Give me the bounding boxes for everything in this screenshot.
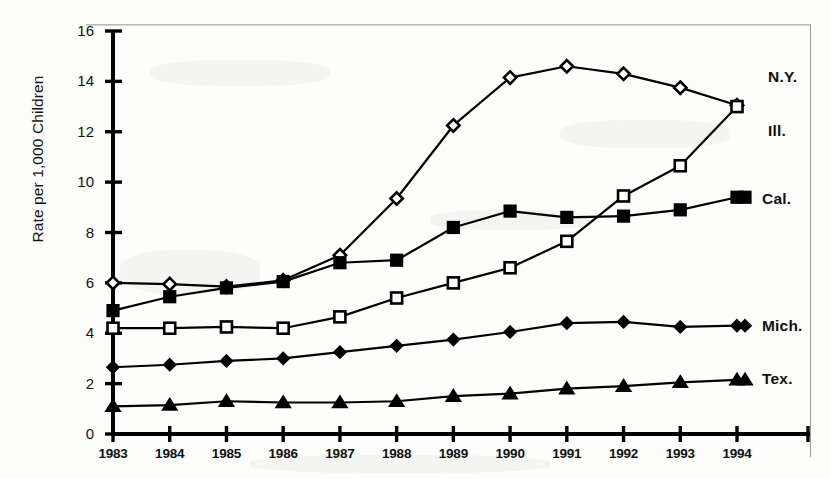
data-point-filled-square (561, 212, 573, 224)
data-series-group (106, 60, 752, 411)
data-point-open-square (164, 323, 175, 334)
data-point-filled-diamond (334, 346, 346, 358)
series-line (113, 66, 737, 286)
data-point-open-square (334, 311, 345, 322)
data-point-open-diamond (674, 81, 686, 93)
series-tex (106, 373, 744, 411)
data-point-filled-diamond (739, 320, 751, 332)
series-ill (108, 101, 743, 334)
series-line (113, 107, 737, 329)
data-point-open-diamond (107, 277, 119, 289)
series-line (113, 380, 737, 406)
data-point-open-square (391, 292, 402, 303)
data-point-filled-square (107, 305, 119, 317)
x-tick-label: 1987 (310, 446, 370, 461)
data-point-filled-diamond (561, 317, 573, 329)
data-point-filled-square (221, 282, 233, 294)
data-point-open-square (561, 236, 572, 247)
y-tick-label: 14 (68, 72, 94, 89)
data-point-filled-diamond (391, 340, 403, 352)
data-point-open-square (108, 323, 119, 334)
data-point-filled-diamond (107, 361, 119, 373)
x-tick-label: 1991 (537, 446, 597, 461)
x-tick-label: 1984 (140, 446, 200, 461)
y-tick-label: 12 (68, 123, 94, 140)
data-point-filled-square (674, 204, 686, 216)
series-label-ill: Ill. (768, 122, 786, 140)
x-tick-label: 1986 (253, 446, 313, 461)
data-point-open-square (221, 321, 232, 332)
y-tick-label: 4 (68, 324, 94, 341)
data-point-open-diamond (617, 68, 629, 80)
y-tick-label: 2 (68, 375, 94, 392)
y-tick-label: 6 (68, 274, 94, 291)
data-point-open-square (675, 160, 686, 171)
data-point-filled-square (277, 276, 289, 288)
x-tick-label: 1990 (480, 446, 540, 461)
plot-area (0, 0, 831, 479)
x-tick-label: 1983 (83, 446, 143, 461)
data-point-open-square (618, 190, 629, 201)
data-point-filled-square (618, 210, 630, 222)
x-tick-label: 1989 (423, 446, 483, 461)
data-point-filled-diamond (277, 352, 289, 364)
data-point-open-square (278, 323, 289, 334)
x-tick-label: 1985 (196, 446, 256, 461)
data-point-filled-diamond (220, 355, 232, 367)
data-point-filled-diamond (674, 321, 686, 333)
data-point-open-square (505, 262, 516, 273)
data-point-open-diamond (164, 278, 176, 290)
data-point-open-square (732, 101, 743, 112)
series-label-tex: Tex. (762, 370, 793, 388)
series-label-cal: Cal. (762, 190, 791, 208)
data-point-filled-square (334, 257, 346, 269)
y-tick-label: 10 (68, 173, 94, 190)
x-tick-label: 1992 (594, 446, 654, 461)
data-point-filled-diamond (618, 316, 630, 328)
data-point-filled-square (739, 191, 751, 203)
y-tick-label: 0 (68, 425, 94, 442)
series-line (113, 197, 737, 310)
data-point-filled-diamond (504, 326, 516, 338)
series-line (113, 322, 737, 367)
x-tick-label: 1993 (650, 446, 710, 461)
series-label-ny: N.Y. (768, 68, 797, 86)
data-point-open-square (448, 277, 459, 288)
x-tick-label: 1994 (707, 446, 767, 461)
y-tick-label: 16 (68, 22, 94, 39)
data-point-open-diamond (561, 60, 573, 72)
series-ny (107, 60, 743, 293)
x-tick-label: 1988 (367, 446, 427, 461)
data-point-filled-square (448, 222, 460, 234)
series-mich (107, 316, 743, 373)
data-point-filled-diamond (447, 334, 459, 346)
y-tick-label: 8 (68, 224, 94, 241)
data-point-filled-square (504, 205, 516, 217)
data-point-filled-square (391, 254, 403, 266)
series-label-mich: Mich. (762, 317, 803, 335)
data-point-filled-square (164, 291, 176, 303)
chart-figure: Rate per 1,000 Children 0246810121416 19… (0, 0, 831, 479)
data-point-filled-diamond (164, 359, 176, 371)
series-cal (107, 191, 743, 316)
